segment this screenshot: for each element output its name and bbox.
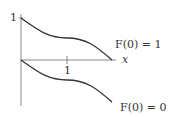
y-tick-label: 1	[10, 11, 17, 24]
x-tick-label: 1	[64, 64, 71, 77]
curve-lower-label: F(0) = 0	[120, 101, 166, 114]
diagram-canvas: 1 1 x F(0) = 1 F(0) = 0	[0, 0, 169, 117]
curve-upper	[21, 18, 112, 60]
x-axis-label: x	[122, 53, 129, 66]
curve-upper-label: F(0) = 1	[115, 38, 161, 51]
